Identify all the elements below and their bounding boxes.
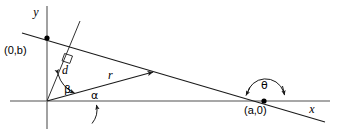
x-axis-label: x	[308, 102, 315, 116]
geometry-figure: y x (0,b) (a,0) d r β α θ	[0, 0, 345, 129]
figure-canvas: y x (0,b) (a,0) d r β α θ	[0, 0, 345, 129]
angle-arc-theta-left-arrow	[246, 88, 250, 96]
y-axis-label: y	[32, 5, 39, 19]
label-x-intercept: (a,0)	[244, 104, 267, 116]
point-y-intercept	[44, 35, 49, 40]
label-y-intercept: (0,b)	[4, 44, 27, 56]
label-distance-d: d	[62, 63, 69, 77]
label-angle-beta: β	[64, 83, 71, 96]
slanted-line	[22, 33, 325, 122]
point-x-intercept	[261, 98, 266, 103]
label-angle-alpha: α	[91, 89, 98, 102]
label-radius-r: r	[108, 68, 113, 82]
angle-arc-alpha	[92, 105, 97, 124]
label-angle-theta: θ	[261, 79, 268, 92]
